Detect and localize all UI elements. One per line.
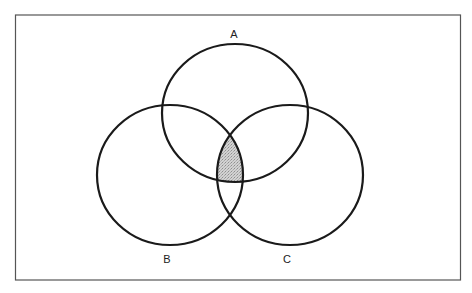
label-c: C: [283, 253, 291, 265]
label-a: A: [230, 28, 238, 40]
label-b: B: [163, 253, 170, 265]
venn-diagram: A B C: [0, 0, 472, 293]
